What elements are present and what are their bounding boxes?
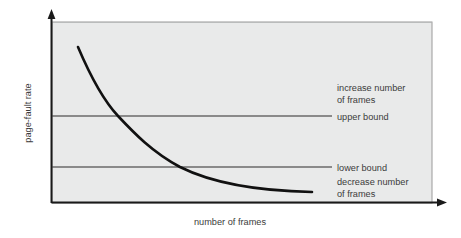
chart-svg: page-fault rate number of frames increas… bbox=[0, 0, 461, 238]
page-fault-rate-figure: page-fault rate number of frames increas… bbox=[0, 0, 461, 238]
increase-frames-label-line1: increase number bbox=[337, 83, 405, 93]
increase-frames-label-line2: of frames bbox=[337, 95, 376, 105]
decrease-frames-label-line2: of frames bbox=[337, 189, 376, 199]
x-axis-label: number of frames bbox=[194, 217, 266, 227]
y-axis-arrowhead bbox=[48, 9, 56, 19]
upper-bound-label: upper bound bbox=[337, 112, 389, 122]
decrease-frames-label-line1: decrease number bbox=[337, 177, 409, 187]
lower-bound-label: lower bound bbox=[337, 163, 387, 173]
y-axis-label: page-fault rate bbox=[23, 83, 33, 142]
x-axis-arrowhead bbox=[437, 199, 447, 207]
